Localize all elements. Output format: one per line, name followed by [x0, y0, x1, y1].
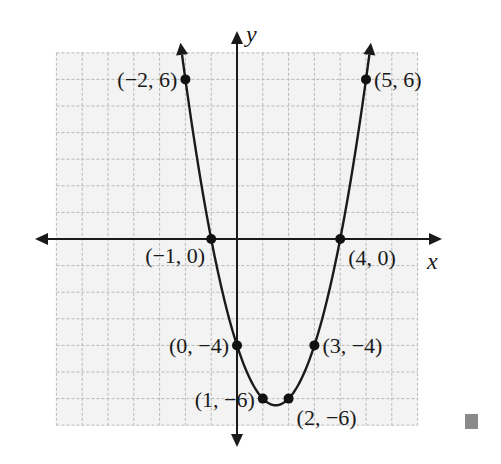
point-label: (−1, 0): [145, 243, 205, 268]
data-point: [284, 394, 294, 404]
data-point: [361, 74, 371, 84]
data-point: [232, 340, 242, 350]
point-label: (5, 6): [374, 67, 422, 92]
point-label: (4, 0): [348, 245, 396, 270]
point-label: (0, −4): [169, 333, 229, 358]
point-label: (2, −6): [297, 405, 357, 430]
data-point: [335, 234, 345, 244]
data-point: [309, 340, 319, 350]
end-of-problem-marker: [465, 414, 478, 429]
data-point: [258, 394, 268, 404]
y-axis-label: y: [244, 21, 257, 47]
data-point: [206, 234, 216, 244]
point-label: (−2, 6): [117, 67, 177, 92]
parabola-chart: (−2, 6)(−1, 0)(0, −4)(1, −6)(2, −6)(3, −…: [0, 0, 501, 464]
point-label: (3, −4): [322, 333, 382, 358]
x-axis-label: x: [426, 248, 438, 274]
data-point: [180, 74, 190, 84]
point-label: (1, −6): [195, 387, 255, 412]
